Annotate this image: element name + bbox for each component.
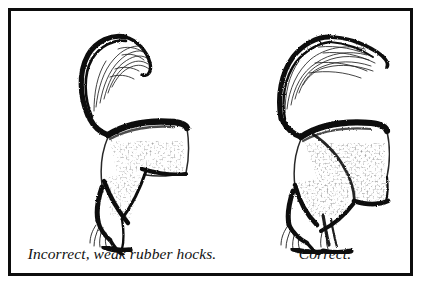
figure-panel-correct: Correct.	[227, 11, 423, 273]
horse-drawing-incorrect	[22, 19, 222, 255]
plate-border-frame: Incorrect, weak rubber hocks.	[8, 8, 413, 276]
figure-panel-incorrect: Incorrect, weak rubber hocks.	[22, 11, 222, 273]
illustration-plate: Incorrect, weak rubber hocks.	[0, 0, 427, 291]
caption-incorrect: Incorrect, weak rubber hocks.	[22, 245, 222, 262]
caption-correct: Correct.	[227, 245, 423, 262]
horse-drawing-correct	[227, 19, 423, 255]
